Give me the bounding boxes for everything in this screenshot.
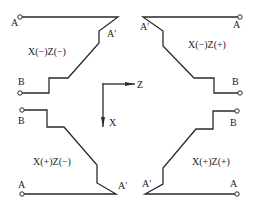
quadrant-label: X(+)Z(+) bbox=[192, 156, 230, 168]
point-a-label: A bbox=[11, 17, 19, 28]
terminal-a-icon bbox=[18, 15, 22, 19]
toolpath-bottom-right bbox=[145, 111, 235, 194]
point-a-prime-label: A′ bbox=[118, 180, 127, 191]
terminal-a-icon bbox=[20, 192, 24, 196]
x-axis-label: X bbox=[109, 117, 117, 128]
terminal-b-icon bbox=[20, 108, 24, 112]
z-axis-label: Z bbox=[137, 79, 143, 90]
point-a-label: A bbox=[18, 179, 26, 190]
coordinate-axes: Z X bbox=[103, 79, 143, 128]
point-b-label: B bbox=[232, 76, 239, 87]
toolpath-top-right bbox=[143, 17, 238, 93]
quadrant-top-right: A A′ B X(−)Z(+) bbox=[140, 15, 242, 95]
quadrant-label: X(−)Z(+) bbox=[188, 39, 226, 51]
terminal-b-icon bbox=[238, 91, 242, 95]
point-b-label: B bbox=[18, 115, 25, 126]
toolpath-quadrant-diagram: A A′ B X(−)Z(−) A A′ B X(−)Z(+) B A A′ X… bbox=[0, 0, 255, 209]
point-b-label: B bbox=[230, 117, 237, 128]
quadrant-top-left: A A′ B X(−)Z(−) bbox=[11, 15, 118, 95]
point-a-prime-label: A′ bbox=[140, 21, 149, 32]
terminal-b-icon bbox=[235, 109, 239, 113]
terminal-b-icon bbox=[18, 91, 22, 95]
quadrant-bottom-right: B A A′ X(+)Z(+) bbox=[142, 109, 239, 196]
point-a-prime-label: A′ bbox=[142, 178, 151, 189]
point-a-prime-label: A′ bbox=[107, 28, 116, 39]
toolpath-bottom-left bbox=[24, 110, 116, 194]
terminal-a-icon bbox=[235, 192, 239, 196]
point-a-label: A bbox=[233, 19, 241, 30]
quadrant-label: X(−)Z(−) bbox=[28, 46, 66, 58]
point-a-label: A bbox=[230, 178, 238, 189]
point-b-label: B bbox=[18, 76, 25, 87]
quadrant-label: X(+)Z(−) bbox=[33, 156, 71, 168]
